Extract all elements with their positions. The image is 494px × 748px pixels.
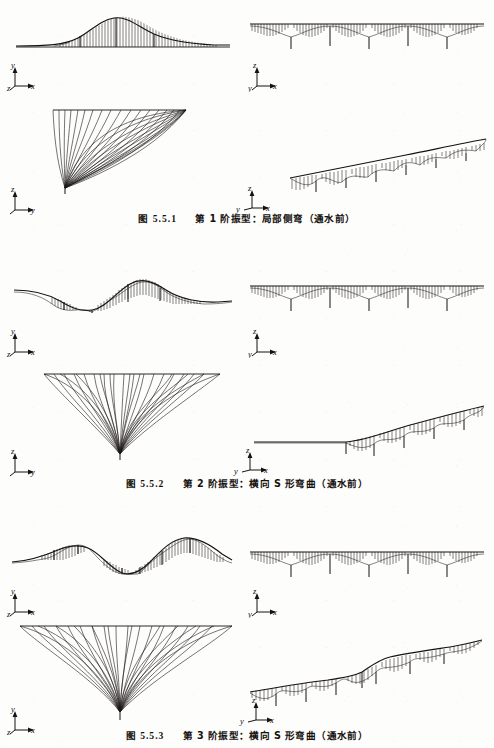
axis-label-y: y [10, 706, 15, 714]
axis-label-z: z [252, 62, 257, 70]
axis-label-y: y [10, 328, 15, 336]
fig1-perspective [286, 132, 492, 194]
figure-caption-text: 第 1 阶振型：局部侧弯（通水前） [195, 213, 355, 224]
axis-label-z: z [6, 349, 11, 358]
axis-label-z: z [6, 609, 11, 618]
fig3-axes-triad-perspective: z x y [238, 696, 284, 726]
figure-5-5-3: y x z [0, 500, 494, 748]
axis-label-y: y [10, 588, 15, 596]
fig1-elevation [248, 6, 488, 54]
axis-label-z: z [10, 186, 15, 194]
figure-5-5-2: y x z [0, 250, 494, 500]
fig1-axes-triad-perspective: z x y [234, 184, 280, 214]
fig3-axes-triad-elevation: z x y [248, 588, 294, 618]
fig1-axes-triad-plan: y x z [6, 62, 52, 92]
axis-label-z: z [245, 446, 250, 455]
axis-label-y: y [233, 466, 238, 476]
axis-label-x: x [263, 465, 268, 475]
axis-label-x: x [272, 347, 277, 357]
axis-label-z: z [252, 328, 257, 336]
fig3-transverse-fan [16, 620, 236, 720]
fig3-plan-mode-shape [8, 532, 236, 588]
figure-caption-text: 第 2 阶振型：横向 S 形弯曲（通水前） [183, 478, 368, 489]
axis-label-y: y [239, 716, 244, 726]
fig2-transverse-fan [40, 366, 224, 462]
axis-label-x: x [30, 607, 35, 617]
fig2-axes-triad-perspective: z x y [232, 446, 278, 476]
axis-label-z: z [251, 696, 256, 705]
fig2-elevation [248, 272, 488, 318]
figure-caption-text: 第 3 阶振型：横向 S 形弯曲（通水前） [183, 730, 368, 741]
document-page: y x z [0, 0, 494, 748]
fig2-axes-triad-elevation: z x y [248, 328, 294, 358]
fig3-axes-triad-plan: y x z [6, 588, 52, 618]
axis-label-x: x [272, 81, 277, 91]
axis-label-x: x [269, 715, 274, 725]
figure-5-5-3-caption: 图 5.5.3 第 3 阶振型：横向 S 形弯曲（通水前） [0, 728, 494, 742]
fig2-axes-triad-plan: y x z [6, 328, 52, 358]
figure-5-5-1: y x z [0, 0, 494, 250]
axis-label-x: x [30, 347, 35, 357]
axis-label-z: z [247, 184, 252, 193]
figure-5-5-2-caption: 图 5.5.2 第 2 阶振型：横向 S 形弯曲（通水前） [0, 476, 494, 490]
fig2-plan-mode-shape [8, 268, 236, 320]
fig1-plan-mode-shape [8, 6, 236, 54]
figure-number: 图 5.5.2 [126, 478, 165, 489]
fig1-transverse-fan [50, 104, 190, 196]
fig2-axes-triad-transverse: z y [6, 448, 52, 478]
axis-label-x: x [30, 81, 35, 91]
figure-number: 图 5.5.1 [138, 213, 177, 224]
fig1-axes-triad-elevation: z x y [248, 62, 294, 92]
axis-label-z: z [252, 588, 257, 596]
figure-5-5-1-caption: 图 5.5.1 第 1 阶振型：局部侧弯（通水前） [0, 211, 494, 225]
axis-label-z: z [10, 448, 15, 456]
figure-number: 图 5.5.3 [126, 730, 165, 741]
axis-label-x: x [272, 607, 277, 617]
axis-label-z: z [6, 83, 11, 92]
axis-label-y: y [248, 83, 252, 92]
axis-label-y: y [248, 349, 252, 358]
fig3-elevation [248, 538, 488, 584]
axis-label-y: y [10, 62, 15, 70]
axis-label-y: y [248, 609, 252, 618]
fig2-perspective [250, 398, 490, 462]
